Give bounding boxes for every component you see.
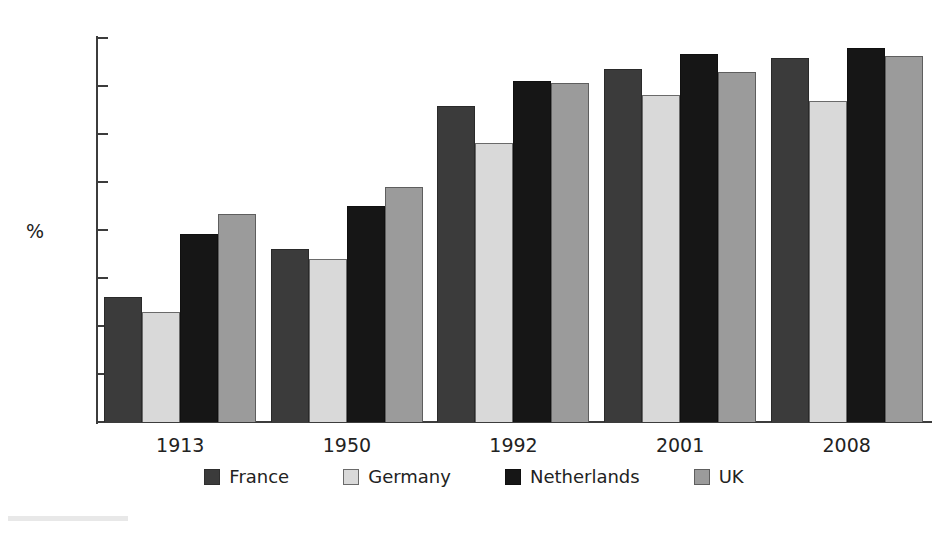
bar-netherlands-2001 [680, 54, 718, 422]
x-axis-category-label: 2001 [597, 432, 764, 458]
bar-germany-2001 [642, 95, 680, 422]
bar-group-1992: 1992 [430, 38, 597, 422]
chart-legend: FranceGermanyNetherlandsUK [0, 466, 948, 488]
scan-artifact [8, 516, 128, 521]
bar-germany-1913 [142, 312, 180, 422]
legend-label: UK [719, 466, 744, 488]
bar-france-2008 [771, 58, 809, 422]
legend-item-netherlands[interactable]: Netherlands [505, 466, 640, 488]
bar-netherlands-1950 [347, 206, 385, 422]
bar-france-1992 [437, 106, 475, 422]
legend-item-france[interactable]: France [204, 466, 289, 488]
bar-uk-1913 [218, 214, 256, 422]
legend-swatch-germany [343, 469, 359, 485]
bar-uk-2001 [718, 72, 756, 422]
y-axis-unit-label: % [26, 218, 44, 244]
x-axis-category-label: 1913 [97, 432, 264, 458]
bar-uk-2008 [885, 56, 923, 422]
bar-france-1913 [104, 297, 142, 422]
bar-uk-1950 [385, 187, 423, 422]
bar-france-1950 [271, 249, 309, 422]
legend-label: France [229, 466, 289, 488]
bar-chart-figure: % 01020304050607080 19131950199220012008… [0, 0, 948, 535]
bar-groups: 19131950199220012008 [97, 38, 930, 422]
bar-germany-2008 [809, 101, 847, 422]
legend-label: Netherlands [530, 466, 640, 488]
bar-germany-1992 [475, 143, 513, 422]
x-axis-category-label: 1992 [430, 432, 597, 458]
bar-netherlands-2008 [847, 48, 885, 422]
legend-swatch-uk [694, 469, 710, 485]
bar-group-2001: 2001 [597, 38, 764, 422]
bar-germany-1950 [309, 259, 347, 422]
bar-netherlands-1913 [180, 234, 218, 422]
bar-group-1950: 1950 [264, 38, 431, 422]
x-axis-category-label: 2008 [763, 432, 930, 458]
bar-france-2001 [604, 69, 642, 422]
legend-label: Germany [368, 466, 451, 488]
legend-item-germany[interactable]: Germany [343, 466, 451, 488]
legend-item-uk[interactable]: UK [694, 466, 744, 488]
bar-netherlands-1992 [513, 81, 551, 422]
legend-swatch-netherlands [505, 469, 521, 485]
x-axis-category-label: 1950 [264, 432, 431, 458]
legend-swatch-france [204, 469, 220, 485]
bar-group-2008: 2008 [763, 38, 930, 422]
bar-group-1913: 1913 [97, 38, 264, 422]
bar-uk-1992 [551, 83, 589, 422]
